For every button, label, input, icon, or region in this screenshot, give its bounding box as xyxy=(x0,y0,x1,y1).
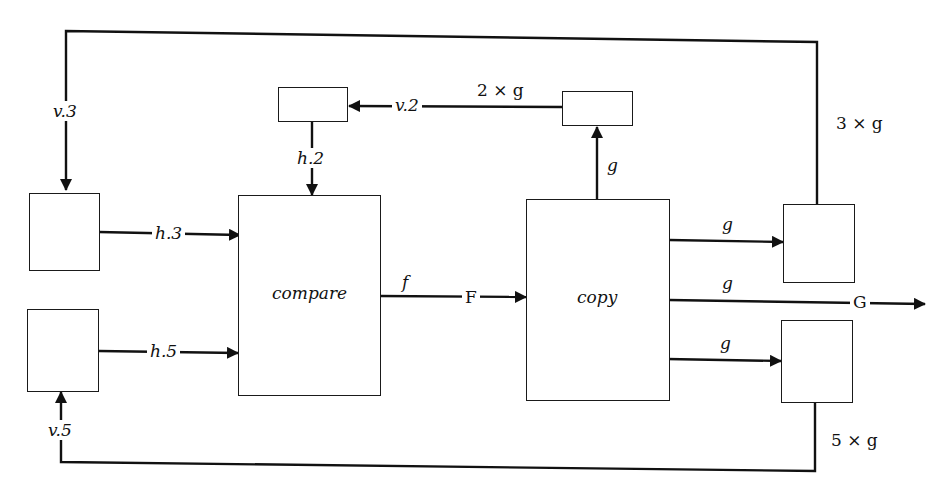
dataflow-diagram: compare copy v.3 v.2 2 × g h.2 g 3 × g h… xyxy=(0,0,943,496)
label-F: F xyxy=(462,287,480,307)
label-g-up: g xyxy=(604,155,621,175)
left-bottom-box xyxy=(27,309,99,392)
label-3xg: 3 × g xyxy=(833,113,886,133)
label-g-mid: g xyxy=(719,273,736,293)
right-bottom-box xyxy=(781,320,853,403)
label-v5: v.5 xyxy=(45,420,75,440)
label-5xg: 5 × g xyxy=(828,430,881,450)
right-top-box xyxy=(783,204,855,283)
compare-label: compare xyxy=(272,283,347,303)
label-v2: v.2 xyxy=(392,95,422,115)
compare-input-box xyxy=(278,87,348,122)
label-h2: h.2 xyxy=(294,148,327,168)
label-2xg: 2 × g xyxy=(474,80,527,100)
label-v3: v.3 xyxy=(50,101,80,121)
copy-output-box xyxy=(562,91,633,126)
label-h3: h.3 xyxy=(152,223,185,243)
left-top-box xyxy=(29,193,100,271)
label-g-top-right: g xyxy=(719,214,736,234)
label-G: G xyxy=(850,292,870,312)
copy-label: copy xyxy=(577,287,617,307)
label-g-bottom-right: g xyxy=(717,333,734,353)
label-f: f xyxy=(399,272,411,292)
label-h5: h.5 xyxy=(147,341,180,361)
